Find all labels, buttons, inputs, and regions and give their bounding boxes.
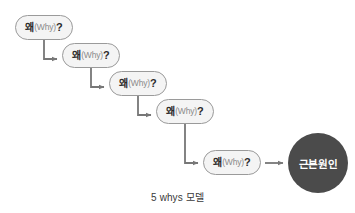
root-cause-label: 근본원인 xyxy=(299,156,338,171)
why-bubble-2[interactable]: 왜(Why)? xyxy=(62,43,120,68)
root-cause-node[interactable]: 근본원인 xyxy=(288,133,348,193)
why-bubble-1-en: (Why) xyxy=(34,23,56,32)
why-bubble-3-en: (Why) xyxy=(128,79,150,88)
why-bubble-5-en: (Why) xyxy=(222,158,244,167)
connector-2-3 xyxy=(91,68,104,87)
connector-4-5 xyxy=(185,124,198,163)
connector-3-4 xyxy=(138,96,151,115)
why-bubble-5[interactable]: 왜(Why)? xyxy=(203,150,261,175)
why-bubble-4[interactable]: 왜(Why)? xyxy=(156,99,214,124)
why-bubble-2-en: (Why) xyxy=(81,51,103,60)
why-bubble-1-question-mark: ? xyxy=(56,22,63,33)
why-bubble-1[interactable]: 왜(Why)? xyxy=(15,15,73,40)
connector-1-2 xyxy=(44,40,57,59)
why-bubble-1-ko: 왜 xyxy=(25,23,34,33)
why-bubble-3-ko: 왜 xyxy=(119,79,128,89)
why-bubble-2-question-mark: ? xyxy=(103,50,110,61)
why-bubble-3-question-mark: ? xyxy=(150,78,157,89)
five-whys-diagram: 왜(Why)? 왜(Why)? 왜(Why)? 왜(Why)? 왜(Why)? … xyxy=(0,0,355,213)
why-bubble-5-ko: 왜 xyxy=(213,158,222,168)
why-bubble-2-ko: 왜 xyxy=(72,51,81,61)
why-bubble-3[interactable]: 왜(Why)? xyxy=(109,71,167,96)
why-bubble-4-ko: 왜 xyxy=(166,107,175,117)
why-bubble-5-question-mark: ? xyxy=(244,157,251,168)
why-bubble-4-question-mark: ? xyxy=(197,106,204,117)
diagram-caption: 5 whys 모델 xyxy=(0,189,355,204)
why-bubble-4-en: (Why) xyxy=(175,107,197,116)
